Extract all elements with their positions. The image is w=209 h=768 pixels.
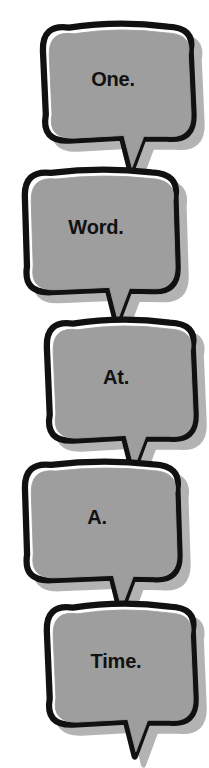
speech-bubble-canvas: One.Word.At.A.Time. bbox=[0, 0, 209, 768]
speech-bubble-shape bbox=[18, 164, 198, 338]
speech-bubble: One. bbox=[36, 18, 190, 186]
speech-bubble-shape bbox=[36, 18, 209, 186]
speech-bubble: Time. bbox=[40, 598, 192, 768]
speech-bubble-shape bbox=[40, 598, 209, 768]
speech-bubble: Word. bbox=[18, 164, 174, 338]
